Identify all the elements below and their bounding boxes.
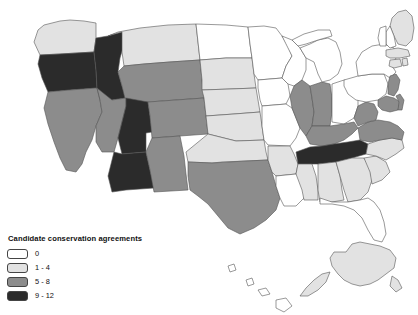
state-rhode-island <box>402 58 408 66</box>
legend-swatch-icon-3 <box>7 291 28 301</box>
legend-swatch-icon-0 <box>7 249 28 259</box>
state-alaska <box>300 242 402 296</box>
legend-label-1: 1 - 4 <box>35 263 50 272</box>
state-oregon <box>38 52 97 92</box>
state-connecticut <box>389 59 402 68</box>
legend-item-3: 9 - 12 <box>7 289 192 302</box>
legend-item-0: 0 <box>7 247 192 260</box>
state-new-jersey <box>388 74 400 96</box>
state-california <box>44 88 102 172</box>
state-florida <box>320 198 386 242</box>
state-indiana <box>310 82 332 126</box>
legend-swatch-icon-2 <box>7 277 28 287</box>
state-hawaii <box>228 264 292 312</box>
state-iowa <box>258 78 290 106</box>
legend-title: Candidate conservation agreements <box>8 234 192 243</box>
legend-item-2: 5 - 8 <box>7 275 192 288</box>
state-vermont <box>378 26 386 46</box>
state-maryland <box>378 96 400 112</box>
state-new-mexico <box>146 136 188 192</box>
choropleth-figure: Candidate conservation agreements 0 1 - … <box>0 0 418 315</box>
state-colorado <box>148 98 208 138</box>
legend-label-0: 0 <box>35 249 39 258</box>
state-washington <box>34 20 96 55</box>
legend-label-3: 9 - 12 <box>35 291 54 300</box>
legend-label-2: 5 - 8 <box>35 277 50 286</box>
state-texas <box>188 160 280 234</box>
state-south-dakota <box>200 58 256 90</box>
state-montana <box>108 24 200 66</box>
state-arkansas <box>268 146 298 176</box>
legend-item-1: 1 - 4 <box>7 261 192 274</box>
map-legend: Candidate conservation agreements 0 1 - … <box>7 234 192 303</box>
legend-swatch-icon-1 <box>7 263 28 273</box>
state-nebraska <box>202 88 260 116</box>
state-north-dakota <box>196 24 252 60</box>
state-massachusetts <box>386 48 410 58</box>
state-wyoming <box>118 60 204 103</box>
